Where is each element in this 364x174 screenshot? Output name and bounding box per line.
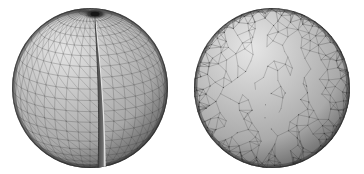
unstructured-sphere-render: Unstructured isotropic triangulation of … <box>182 0 364 174</box>
pole-core <box>91 12 100 16</box>
figure-root: Structured latitude-longitude sphere wit… <box>0 0 364 174</box>
structured-sphere-render: Structured latitude-longitude sphere wit… <box>0 0 182 174</box>
sphere-panel-structured: Structured latitude-longitude sphere wit… <box>0 0 182 174</box>
sphere-panel-unstructured: Unstructured isotropic triangulation of … <box>182 0 364 174</box>
